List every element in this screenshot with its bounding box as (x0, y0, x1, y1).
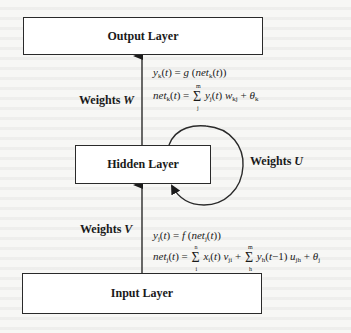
output-layer-box: Output Layer (23, 17, 263, 55)
weights-u-label: Weights U (250, 154, 303, 169)
weights-w-label: Weights W (79, 93, 134, 108)
output-layer-label: Output Layer (107, 29, 178, 44)
equation-hidden-net: netj(t) = Σni xi(t) vji + Σmh yh(t−1) uj… (153, 251, 320, 265)
hidden-layer-box: Hidden Layer (75, 145, 211, 184)
equation-output-activation: yk(t) = g (netk(t)) (153, 67, 226, 80)
input-layer-box: Input Layer (22, 273, 262, 314)
input-layer-label: Input Layer (111, 286, 173, 301)
hidden-layer-label: Hidden Layer (107, 157, 179, 172)
equation-output-net: netk(t) = Σmj yj(t) wkj + θk (153, 90, 258, 104)
equation-hidden-activation: yj(t) = f (netj(t)) (153, 230, 221, 243)
weights-v-label: Weights V (80, 222, 132, 237)
